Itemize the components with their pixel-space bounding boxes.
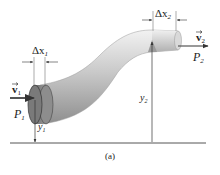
outlet-end-cap (175, 31, 182, 50)
bernoulli-pipe-diagram: Δx1 Δx2 v1 v2 P1 P2 y1 y2 (a) (0, 0, 220, 175)
pipe-outlet (152, 30, 178, 52)
delta-x1-label: Δx1 (32, 44, 48, 58)
pressure2-label: P2 (192, 50, 204, 65)
figure-caption: (a) (105, 151, 115, 161)
height2-label: y2 (139, 92, 147, 104)
pressure1-label: P1 (13, 107, 25, 122)
delta-x2-label: Δx2 (155, 7, 172, 21)
